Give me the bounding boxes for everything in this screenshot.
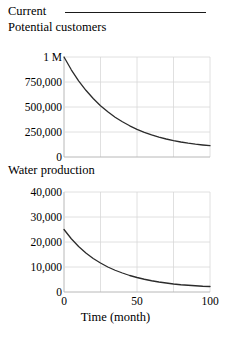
legend-line-swatch [65,12,206,13]
y-tick-label: 1 M [2,51,62,63]
y-tick-label: 20,000 [2,236,62,248]
x-tick-label: 50 [131,295,143,308]
chart-title-potential-customers: Potential customers [8,20,106,35]
x-tick-label: 0 [61,295,67,308]
y-axis-potential-customers: 0250,000500,000750,0001 M [0,57,62,157]
y-tick-label: 250,000 [2,126,62,138]
y-tick-label: 40,000 [2,186,62,198]
legend-label-current: Current [8,4,46,19]
y-tick-label: 0 [2,286,62,298]
x-axis-label: Time (month) [0,310,231,325]
chart-svg-water-production [64,192,210,292]
plot-area-water-production [64,192,210,292]
y-tick-label: 10,000 [2,261,62,273]
chart-title-water-production: Water production [8,163,95,178]
y-tick-label: 30,000 [2,211,62,223]
y-axis-water-production: 010,00020,00030,00040,000 [0,192,62,292]
y-tick-label: 0 [2,151,62,163]
y-tick-label: 750,000 [2,76,62,88]
y-tick-label: 500,000 [2,101,62,113]
legend: Current [8,4,223,21]
chart-svg-potential-customers [64,57,210,157]
x-tick-label: 100 [201,295,218,308]
figure: Current Potential customers 0250,000500,… [0,0,231,337]
x-axis-ticks: 050100 [64,295,210,309]
plot-area-potential-customers [64,57,210,157]
